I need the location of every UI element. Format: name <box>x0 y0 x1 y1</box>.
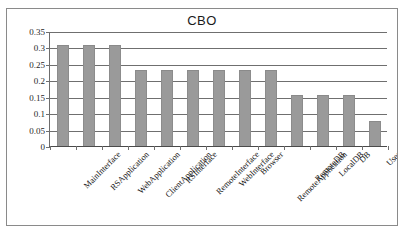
y-tick-label: 0.2 <box>34 77 45 86</box>
x-tick-mark <box>128 146 129 150</box>
bar <box>343 95 355 146</box>
x-tick-mark <box>232 146 233 150</box>
bar <box>265 70 277 146</box>
x-category-label: User <box>385 150 398 168</box>
chart-frame: CBO 00.050.10.150.20.250.30.35 MainInter… <box>6 8 398 226</box>
y-tick-label: 0.35 <box>29 28 45 37</box>
gridline <box>50 65 387 66</box>
bar <box>57 45 69 146</box>
y-tick-label: 0.25 <box>29 60 45 69</box>
y-tick-mark <box>46 48 50 49</box>
x-tick-mark <box>102 146 103 150</box>
y-tick-mark <box>46 98 50 99</box>
bar <box>317 95 329 146</box>
bar <box>83 45 95 146</box>
x-tick-mark <box>154 146 155 150</box>
bar <box>291 95 303 146</box>
y-tick-label: 0 <box>41 143 46 152</box>
y-tick-label: 0.05 <box>29 126 45 135</box>
x-tick-mark <box>310 146 311 150</box>
bar <box>213 70 225 146</box>
y-tick-mark <box>46 131 50 132</box>
x-tick-mark <box>258 146 259 150</box>
bar <box>239 70 251 146</box>
x-tick-mark <box>362 146 363 150</box>
bar <box>187 70 199 146</box>
x-tick-mark <box>50 146 51 150</box>
plot-area: 00.050.10.150.20.250.30.35 MainInterface… <box>49 32 387 147</box>
x-tick-mark <box>388 146 389 150</box>
y-tick-label: 0.15 <box>29 93 45 102</box>
bar <box>161 70 173 146</box>
y-tick-label: 0.1 <box>34 110 45 119</box>
x-tick-mark <box>180 146 181 150</box>
y-tick-mark <box>46 81 50 82</box>
chart-title: CBO <box>7 14 397 28</box>
y-tick-mark <box>46 114 50 115</box>
y-tick-label: 0.3 <box>34 44 45 53</box>
bar <box>369 121 381 146</box>
gridline <box>50 48 387 49</box>
x-tick-mark <box>76 146 77 150</box>
x-tick-mark <box>336 146 337 150</box>
y-tick-mark <box>46 32 50 33</box>
y-tick-mark <box>46 65 50 66</box>
bar <box>135 70 147 146</box>
gridline <box>50 32 387 33</box>
bar <box>109 45 121 146</box>
x-tick-mark <box>284 146 285 150</box>
